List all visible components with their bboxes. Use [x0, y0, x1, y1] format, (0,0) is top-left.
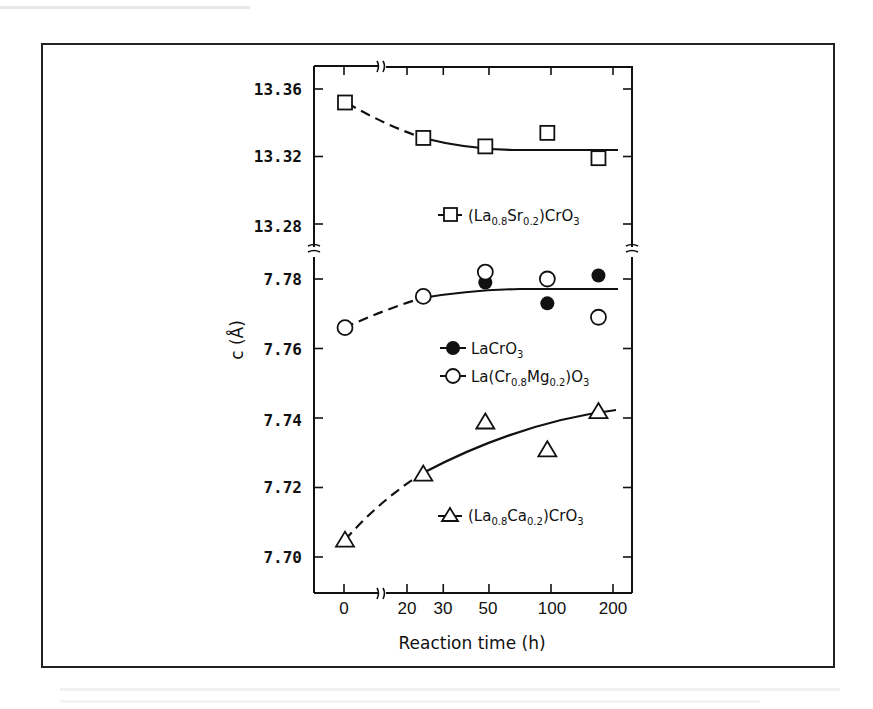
- open-triangle-data-point: [476, 413, 494, 428]
- y-tick-label: 7.74: [263, 411, 302, 430]
- y-tick-label: 13.36: [254, 80, 302, 99]
- y-tick-labels-upper: 13.36 13.32 13.28: [254, 80, 302, 236]
- x-tick-label: 200: [599, 599, 627, 618]
- legend-lacro3: LaCrO3: [440, 340, 523, 360]
- y-tick-label: 13.28: [254, 217, 302, 236]
- data-markers: [336, 96, 607, 547]
- open-circle-data-point: [338, 320, 353, 335]
- x-tick-label: 0: [339, 599, 348, 618]
- open-square-data-point: [478, 139, 492, 153]
- open-circle-data-point: [591, 310, 606, 325]
- open-triangle-data-point: [538, 441, 556, 456]
- x-tick-label: 20: [398, 599, 417, 618]
- fit-curve-ca-dashed: [345, 473, 423, 540]
- legend-label-ca: (La0.8Ca0.2)CrO3: [468, 507, 584, 527]
- legend-mg: La(Cr0.8Mg0.2)O3: [440, 368, 589, 388]
- open-triangle-data-point: [414, 466, 432, 481]
- legend-label-sr: (La0.8Sr0.2)CrO3: [468, 207, 580, 227]
- open-circle-data-point: [416, 289, 431, 304]
- open-triangle-icon: [442, 508, 458, 521]
- legend-sr: (La0.8Sr0.2)CrO3: [438, 207, 580, 227]
- open-square-data-point: [416, 131, 430, 145]
- fit-curve-la: [422, 289, 618, 298]
- open-square-data-point: [338, 96, 352, 110]
- filled-circle-icon: [446, 341, 460, 355]
- y-tick-label: 7.70: [263, 548, 302, 567]
- x-axis-title: Reaction time (h): [398, 633, 545, 653]
- y-tick-label: 7.72: [263, 478, 302, 497]
- fit-curves: [344, 103, 618, 540]
- fit-curve-la-dashed: [344, 298, 422, 328]
- y-axis-title: c (Å): [226, 320, 247, 360]
- x-tick-label: 30: [434, 599, 453, 618]
- chart: 13.36 13.32 13.28 7.78 7.76 7.74 7.72 7.…: [0, 0, 873, 709]
- fit-curve-sr: [423, 138, 618, 150]
- filled-circle-data-point: [591, 269, 605, 283]
- y-tick-label: 7.78: [263, 270, 302, 289]
- x-tick-labels: 0 20 30 50 100 200: [339, 599, 627, 618]
- legend-ca: (La0.8Ca0.2)CrO3: [438, 507, 584, 527]
- y-tick-label: 13.32: [254, 147, 302, 166]
- open-square-icon: [444, 208, 457, 221]
- open-circle-data-point: [540, 272, 555, 287]
- open-circle-data-point: [478, 265, 493, 280]
- open-circle-icon: [446, 369, 460, 383]
- y-tick-labels-lower: 7.78 7.76 7.74 7.72 7.70: [263, 270, 302, 567]
- x-tick-label: 50: [479, 599, 498, 618]
- filled-circle-data-point: [540, 296, 554, 310]
- legend-label-lacro3: LaCrO3: [471, 340, 523, 360]
- fit-curve-sr-dashed: [347, 103, 423, 138]
- y-tick-label: 7.76: [263, 340, 302, 359]
- open-square-data-point: [540, 126, 554, 140]
- open-square-data-point: [591, 151, 605, 165]
- x-tick-label: 100: [538, 599, 566, 618]
- fit-curve-ca: [423, 410, 616, 473]
- legend-label-mg: La(Cr0.8Mg0.2)O3: [471, 368, 589, 388]
